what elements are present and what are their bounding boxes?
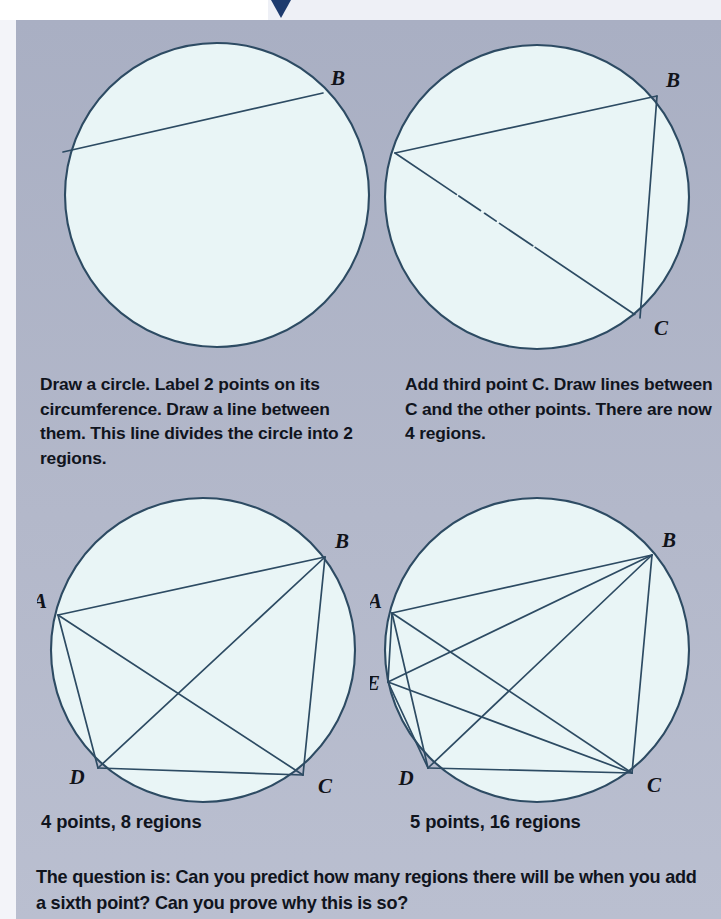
figure-4-circle-5-points: A B C D E xyxy=(370,490,710,810)
circle-outline xyxy=(385,45,689,349)
point-label-B: B xyxy=(665,68,680,92)
figure-4-svg: A B C D E xyxy=(370,490,710,810)
figure-2-circle-3-points: A B C xyxy=(383,35,713,365)
point-label-A: A xyxy=(370,589,382,613)
page-marker-triangle-icon xyxy=(271,0,291,18)
circle-outline xyxy=(65,43,369,347)
point-label-D: D xyxy=(397,766,413,790)
point-label-B: B xyxy=(661,528,676,552)
figure-2-caption: Add third point C. Draw lines between C … xyxy=(405,372,717,446)
point-label-C: C xyxy=(318,774,333,798)
figure-4-caption: 5 points, 16 regions xyxy=(410,811,581,833)
figure-3-circle-4-points: A B C D xyxy=(37,490,377,810)
point-label-E: E xyxy=(370,671,380,695)
figure-1-svg: A B xyxy=(50,35,380,365)
top-strip-tint xyxy=(268,0,721,20)
figure-3-caption: 4 points, 8 regions xyxy=(41,811,202,833)
figure-3-svg: A B C D xyxy=(37,490,377,810)
point-label-B: B xyxy=(330,66,345,90)
point-label-C: C xyxy=(647,773,662,797)
point-label-D: D xyxy=(68,765,84,789)
circle-outline xyxy=(51,498,355,802)
point-label-A: A xyxy=(37,589,47,613)
top-white-strip xyxy=(0,0,721,20)
figure-1-caption: Draw a circle. Label 2 points on its cir… xyxy=(40,372,362,470)
point-label-C: C xyxy=(654,316,669,340)
closing-question-text: The question is: Can you predict how man… xyxy=(36,864,702,916)
figure-1-circle-2-points: A B xyxy=(50,35,380,365)
left-page-margin xyxy=(0,20,16,919)
point-label-B: B xyxy=(334,529,349,553)
figure-2-svg: A B C xyxy=(383,35,713,365)
